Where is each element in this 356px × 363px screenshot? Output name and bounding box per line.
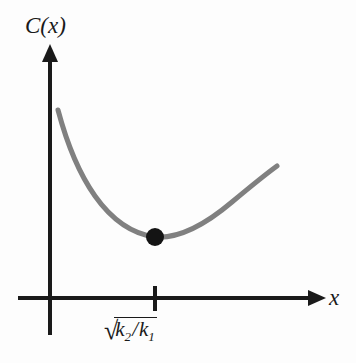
- minimum-point-marker: [146, 228, 164, 246]
- x-axis-arrowhead: [308, 290, 326, 306]
- numerator-symbol: k: [115, 317, 124, 341]
- x-axis-label: x: [328, 285, 340, 310]
- numerator-k2: k2: [115, 317, 131, 341]
- y-axis-label: C(x): [25, 13, 66, 38]
- figure-container: C(x) x √k2/k1: [0, 0, 356, 363]
- cost-curve-plot: C(x) x: [0, 0, 356, 363]
- y-axis-arrowhead: [42, 44, 58, 62]
- denominator-symbol: k: [139, 317, 148, 341]
- fraction-slash: /: [131, 317, 139, 341]
- denominator-k1: k1: [139, 317, 155, 341]
- cost-curve: [58, 110, 277, 237]
- x-tick-label: √k2/k1: [104, 316, 157, 344]
- denominator-subscript: 1: [148, 329, 155, 344]
- radicand: k2/k1: [114, 317, 157, 343]
